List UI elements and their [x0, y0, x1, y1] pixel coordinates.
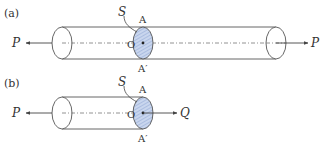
point-a-prime-label: A′: [137, 133, 148, 144]
rod-cross-section-diagram: (a) P P S A O A′ (b): [0, 0, 334, 149]
diagram-b-label: (b): [4, 77, 20, 90]
right-force-label: P: [310, 36, 320, 50]
diagram-b: (b) P Q S A O A′: [4, 75, 190, 144]
surface-label: S: [118, 75, 126, 89]
point-a-label: A: [138, 84, 147, 95]
right-force-label: Q: [180, 106, 190, 120]
point-a-prime-label: A′: [137, 63, 148, 74]
diagram-a: (a) P P S A O A′: [4, 5, 320, 74]
point-o-label: O: [127, 39, 135, 50]
diagram-a-label: (a): [4, 7, 19, 20]
left-force-label: P: [11, 106, 21, 120]
point-o-label: O: [127, 109, 135, 120]
surface-label: S: [118, 5, 126, 19]
center-point-o: [142, 42, 145, 45]
left-force-label: P: [11, 36, 21, 50]
point-a-label: A: [138, 14, 147, 25]
